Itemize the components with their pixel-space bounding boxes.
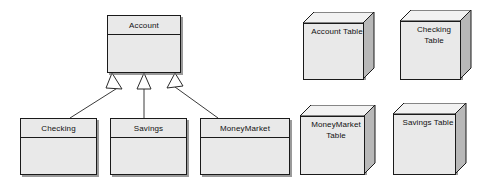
class-name-checking: Checking (21, 119, 96, 138)
class-box-account[interactable]: Account (107, 15, 181, 73)
database-table-moneymarket[interactable]: MoneyMarketTable (300, 105, 376, 175)
edge-line (70, 87, 119, 118)
class-box-savings[interactable]: Savings (110, 118, 187, 175)
hollow-triangle-arrowhead (167, 73, 183, 88)
table-label-line: MoneyMarket (311, 120, 361, 129)
table-top-face (300, 105, 375, 116)
database-table-savings[interactable]: Savings Table (393, 103, 467, 175)
table-top-face (400, 10, 471, 21)
hollow-triangle-arrowhead (106, 73, 122, 89)
table-label-line: Table (326, 131, 346, 140)
class-attributes-checking (21, 138, 96, 174)
table-top-face (393, 103, 466, 114)
class-attributes-account (108, 35, 180, 72)
table-label-line: Table (424, 36, 444, 45)
database-table-checking[interactable]: CheckingTable (400, 10, 472, 80)
generalization-checking-to-account (70, 73, 122, 118)
class-name-moneymarket: MoneyMarket (201, 119, 289, 138)
database-table-shape (393, 103, 467, 175)
table-side-face (363, 12, 374, 79)
hollow-triangle-arrowhead (137, 73, 151, 89)
table-label-line: Savings Table (403, 118, 454, 127)
class-name-savings: Savings (111, 119, 186, 138)
database-table-account[interactable]: Account Table (303, 12, 375, 80)
class-attributes-moneymarket (201, 138, 289, 174)
table-top-face (303, 12, 374, 23)
database-table-label-moneymarket: MoneyMarketTable (304, 120, 368, 141)
database-table-label-checking: CheckingTable (404, 25, 464, 46)
table-side-face (455, 103, 466, 174)
class-attributes-savings (111, 138, 186, 174)
class-box-checking[interactable]: Checking (20, 118, 97, 175)
class-box-moneymarket[interactable]: MoneyMarket (200, 118, 290, 175)
class-name-account: Account (108, 16, 180, 35)
table-label-line: Account Table (311, 27, 362, 36)
diagram-canvas: Account Checking Savings MoneyMarket Acc… (0, 0, 488, 188)
database-table-label-account: Account Table (307, 27, 367, 38)
table-label-line: Checking (417, 25, 451, 34)
generalization-moneymarket-to-account (167, 73, 218, 118)
database-table-shape (303, 12, 375, 80)
database-table-label-savings: Savings Table (397, 118, 459, 129)
edge-line (175, 87, 218, 118)
generalization-savings-to-account (137, 73, 151, 118)
